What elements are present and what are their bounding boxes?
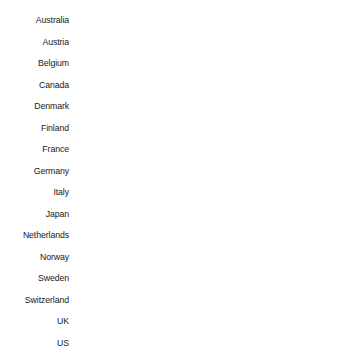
- bar-row: Denmark: [0, 98, 353, 114]
- bar-row: UK: [0, 313, 353, 329]
- bar-row: Japan: [0, 206, 353, 222]
- bar-label-switzerland: Switzerland: [6, 292, 69, 308]
- bar-label-japan: Japan: [6, 206, 69, 222]
- bar-chart: Australia Austria Belgium Canada Denmark…: [0, 0, 353, 357]
- bar-label-sweden: Sweden: [6, 270, 69, 286]
- bar-label-us: US: [6, 335, 69, 351]
- bar-row: US: [0, 335, 353, 351]
- bar-label-italy: Italy: [6, 184, 69, 200]
- bar-label-germany: Germany: [6, 163, 69, 179]
- bar-row: Germany: [0, 163, 353, 179]
- bar-label-belgium: Belgium: [6, 55, 69, 71]
- bar-row: France: [0, 141, 353, 157]
- bar-row: Canada: [0, 77, 353, 93]
- bar-row: Switzerland: [0, 292, 353, 308]
- bar-label-canada: Canada: [6, 77, 69, 93]
- bar-label-france: France: [6, 141, 69, 157]
- bar-row: Netherlands: [0, 227, 353, 243]
- bar-label-netherlands: Netherlands: [6, 227, 69, 243]
- bar-label-uk: UK: [6, 313, 69, 329]
- bar-label-norway: Norway: [6, 249, 69, 265]
- bar-row: Austria: [0, 34, 353, 50]
- bar-row: Italy: [0, 184, 353, 200]
- bar-row: Australia: [0, 12, 353, 28]
- bar-row: Belgium: [0, 55, 353, 71]
- bar-label-denmark: Denmark: [6, 98, 69, 114]
- bar-label-finland: Finland: [6, 120, 69, 136]
- bar-label-austria: Austria: [6, 34, 69, 50]
- bar-row: Norway: [0, 249, 353, 265]
- bar-label-australia: Australia: [6, 12, 69, 28]
- bar-row: Finland: [0, 120, 353, 136]
- bar-row: Sweden: [0, 270, 353, 286]
